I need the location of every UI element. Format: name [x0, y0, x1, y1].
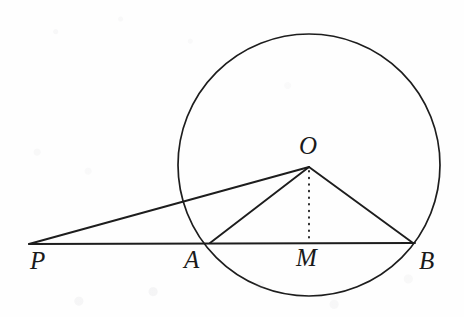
segment-PB	[29, 243, 415, 244]
segment-AO	[210, 167, 309, 243]
geometry-figure: P A M B O	[0, 0, 464, 317]
point-label-B: B	[419, 248, 434, 273]
segment-PO	[29, 167, 309, 244]
point-label-M: M	[296, 245, 317, 270]
point-label-P: P	[30, 248, 45, 273]
point-label-O: O	[299, 133, 317, 158]
segment-OB	[309, 167, 413, 243]
point-label-A: A	[184, 247, 199, 272]
geometry-canvas	[0, 0, 464, 317]
